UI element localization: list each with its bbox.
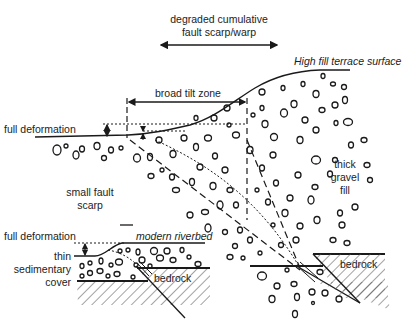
sedimentary-label: sedimentary <box>14 263 72 275</box>
high-fill-surface-label: High fill terrace surface <box>294 55 402 67</box>
modern-riverbed-label: modern riverbed <box>136 230 214 242</box>
gravel-label: gravel <box>331 171 360 183</box>
small-fault-label-1: small fault <box>66 186 113 198</box>
full-deformation-top-label: full deformation <box>4 123 76 135</box>
small-fault-label-2: scarp <box>77 199 103 211</box>
cover-label: cover <box>45 276 71 288</box>
bedrock-bottom-label: bedrock <box>154 272 192 284</box>
fault-diagram: degraded cumulative fault scarp/warp Hig… <box>0 0 417 336</box>
degraded-label-2: fault scarp/warp <box>182 26 256 38</box>
bedrock-right-label: bedrock <box>340 258 378 270</box>
fill-label: fill <box>340 184 350 196</box>
full-deformation-bottom-label: full deformation <box>4 230 76 242</box>
broad-tilt-label: broad tilt zone <box>155 87 221 99</box>
terrace-surface-line <box>35 70 350 137</box>
thin-label: thin <box>54 250 71 262</box>
degraded-label-1: degraded cumulative <box>170 13 268 25</box>
